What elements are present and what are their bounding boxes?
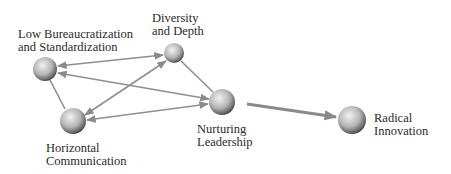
edge-lowbureau-nurturing bbox=[58, 73, 209, 99]
node-nurturing-leadership bbox=[209, 89, 235, 115]
edge-nurturing-radical bbox=[247, 104, 336, 117]
node-diversity-depth bbox=[164, 43, 184, 63]
label-low-bureaucratization: Low Bureaucratization and Standardizatio… bbox=[18, 28, 133, 54]
label-horizontal-communication: Horizontal Communication bbox=[46, 142, 127, 168]
edge-lowbureau-horizontal bbox=[50, 80, 65, 109]
edge-diversity-horizontal bbox=[85, 61, 166, 115]
node-low-bureaucratization bbox=[33, 57, 57, 81]
label-diversity-depth: Diversity and Depth bbox=[152, 12, 204, 38]
node-radical-innovation bbox=[338, 106, 366, 134]
label-radical-innovation: Radical Innovation bbox=[374, 112, 428, 138]
edge-diversity-nurturing bbox=[181, 61, 213, 92]
label-nurturing-leadership: Nurturing Leadership bbox=[197, 123, 253, 149]
node-horizontal-communication bbox=[60, 108, 86, 134]
edge-lowbureau-diversity bbox=[58, 55, 163, 66]
edge-horizontal-nurturing bbox=[87, 104, 208, 120]
